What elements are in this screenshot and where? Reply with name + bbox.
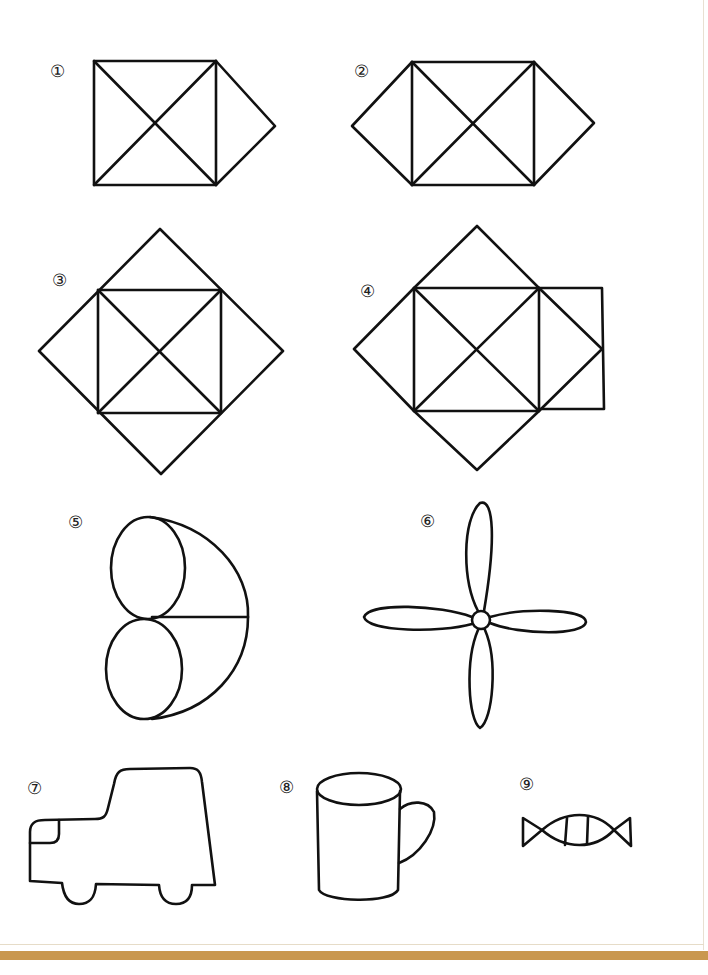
figure-5-two-ellipses	[106, 517, 248, 719]
figure-9-candy	[523, 815, 631, 846]
page-edge-right	[703, 0, 704, 950]
page-edge-bottom	[0, 944, 704, 945]
figure-6-propeller	[364, 503, 586, 728]
figure-7-car	[30, 768, 215, 904]
figures-canvas	[0, 0, 708, 975]
figure-8-mug	[317, 773, 434, 900]
worksheet-page: ① ② ③ ④ ⑤ ⑥ ⑦ ⑧ ⑨	[0, 0, 708, 975]
figure-4-nested-squares-extended	[354, 226, 604, 470]
figure-2-hexagon-square	[352, 62, 594, 185]
footer-band	[0, 951, 708, 960]
figure-3-nested-squares	[39, 229, 283, 474]
figure-1-square-with-triangle	[94, 61, 275, 185]
